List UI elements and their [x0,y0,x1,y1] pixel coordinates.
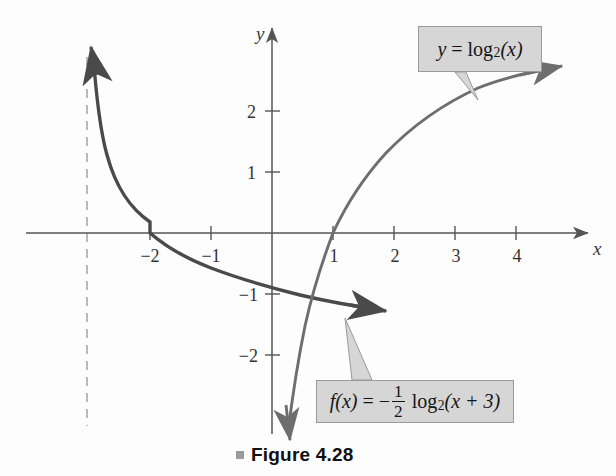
fx-argument: (x + 3) [445,390,501,413]
callout-log2-formula: y = log2(x) [437,38,522,61]
x-tick-label-4: 4 [513,246,522,266]
x-tick-label-neg1: −1 [201,246,220,266]
figure-caption-text: Figure 4.28 [251,444,354,466]
fx-base: 2 [438,398,445,414]
square-bullet-icon [236,451,244,459]
figure-4-28: y x −2 −1 1 2 3 4 2 1 −1 −2 y = log2(x) … [0,0,616,476]
x-tick-label-3: 3 [452,246,461,266]
log2-equals: = [451,38,462,61]
figure-caption: Figure 4.28 [236,444,354,466]
fx-callout-pointer [345,318,372,380]
log2-base: 2 [494,45,501,61]
fx-frac-numerator: 1 [392,383,405,402]
y-tick-label-neg2: −2 [239,346,258,366]
fx-equals: = [363,390,374,413]
log2-callout-pointer [455,72,478,100]
x-tick-label-1: 1 [330,246,339,266]
fx-minus-sign: − [379,390,390,413]
x-tick-label-2: 2 [391,246,400,266]
fx-log-word: log [412,390,438,413]
callout-fx-formula: f(x) = −12 log2(x + 3) [330,383,500,420]
y-axis-label: y [254,23,265,44]
y-tick-label-1: 1 [247,163,256,183]
x-axis-label: x [592,238,602,259]
callout-fx: f(x) = −12 log2(x + 3) [316,380,514,423]
y-tick-label-2: 2 [247,102,256,122]
log2-argument: (x) [500,38,522,61]
fx-curve-arrow-right [350,305,386,311]
callout-log2: y = log2(x) [418,26,542,72]
x-tick-label-neg2: −2 [140,246,159,266]
y-tick-label-neg1: −1 [239,285,258,305]
log2-y-symbol: y [437,38,446,61]
log2-log-word: log [468,38,494,61]
fx-curve [93,52,382,310]
fx-frac-denominator: 2 [392,402,405,420]
fx-function-name: f(x) [330,390,358,413]
fx-one-half-fraction: 12 [392,383,405,420]
